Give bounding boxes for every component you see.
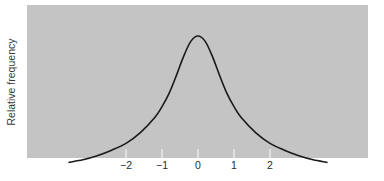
x-tick-label-1: 1 bbox=[231, 159, 237, 171]
x-tick-label-neg1: −1 bbox=[156, 159, 168, 171]
chart-svg bbox=[0, 0, 384, 181]
x-tick-label-2: 2 bbox=[267, 159, 273, 171]
x-tick-label-0: 0 bbox=[195, 159, 201, 171]
x-tick-label-neg2: −2 bbox=[120, 159, 132, 171]
x-axis-ticks bbox=[126, 149, 270, 158]
distribution-curve bbox=[68, 36, 327, 163]
